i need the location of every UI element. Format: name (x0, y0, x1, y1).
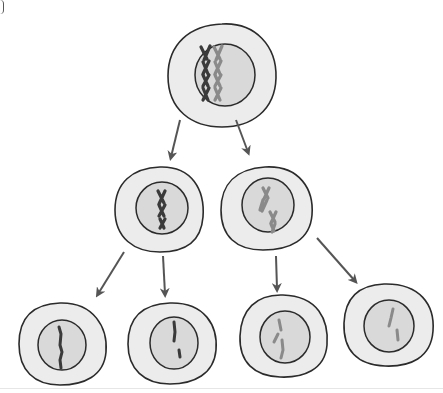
chromatid-dark-icon (59, 327, 62, 368)
gamete-cell-1 (19, 303, 106, 385)
nucleus (242, 178, 294, 232)
arrow-to-gamete-1 (98, 252, 124, 294)
daughter-cell-left (115, 167, 203, 252)
arrow-to-gamete-2 (163, 256, 165, 294)
arrow-to-gamete-4 (317, 238, 355, 281)
nucleus (38, 320, 86, 370)
gamete-cell-3 (240, 295, 327, 377)
nucleus (260, 311, 310, 363)
parent-cell (168, 24, 276, 127)
arrow-left-to-daughter (171, 120, 180, 157)
gamete-cell-4 (344, 284, 433, 366)
meiosis-diagram (0, 0, 443, 393)
gamete-cell-2 (128, 303, 216, 384)
bottom-divider (0, 388, 443, 389)
daughter-cell-right (221, 167, 312, 250)
arrow-to-gamete-3 (276, 256, 277, 289)
